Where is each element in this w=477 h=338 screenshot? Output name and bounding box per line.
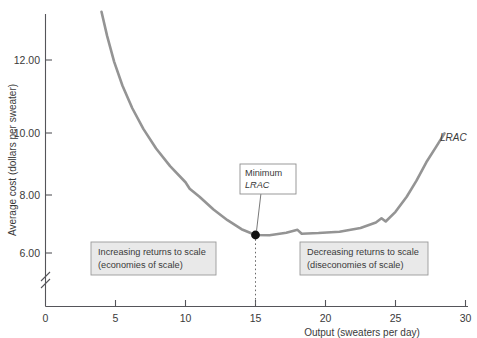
x-tick-label-25: 25	[390, 312, 402, 324]
minimum-callout-box: Minimum LRAC	[240, 164, 296, 194]
x-axis-title: Output (sweaters per day)	[304, 327, 420, 338]
lrac-chart: 12.00 10.00 8.00 6.00 0 5 10 15 20 25 30…	[0, 0, 477, 338]
annotation-increasing-returns: Increasing returns to scale (economies o…	[91, 242, 216, 275]
x-tick-label-0: 0	[43, 312, 49, 324]
x-tick-label-10: 10	[180, 312, 192, 324]
minimum-callout-line2: LRAC	[245, 180, 270, 190]
y-tick-label-8: 8.00	[20, 189, 41, 201]
x-tick-label-15: 15	[250, 312, 262, 324]
y-axis-title: Average cost (dollars per sweater)	[7, 84, 18, 236]
chart-background	[0, 0, 477, 338]
annotation-decreasing-returns: Decreasing returns to scale (diseconomie…	[300, 242, 428, 275]
y-tick-label-6: 6.00	[20, 247, 41, 259]
minimum-callout-line1: Minimum	[245, 168, 283, 178]
x-tick-label-5: 5	[113, 312, 119, 324]
y-tick-label-12: 12.00	[14, 54, 40, 66]
minimum-point-marker	[251, 231, 260, 240]
annotation-decreasing-line2: (diseconomies of scale)	[307, 260, 404, 270]
lrac-curve-label: LRAC	[440, 132, 467, 143]
annotation-increasing-line1: Increasing returns to scale	[98, 247, 206, 257]
annotation-increasing-line2: (economies of scale)	[98, 260, 183, 270]
annotation-decreasing-line1: Decreasing returns to scale	[307, 247, 419, 257]
x-tick-label-30: 30	[460, 312, 472, 324]
x-tick-label-20: 20	[320, 312, 332, 324]
